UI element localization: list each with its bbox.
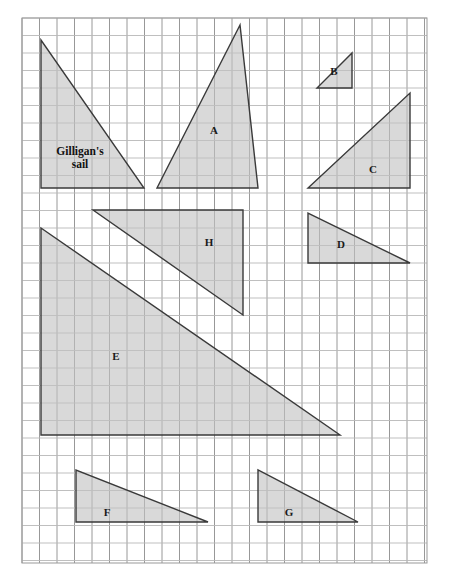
label-triangle-c: C (369, 163, 377, 175)
label-triangle-h: H (205, 236, 214, 248)
triangle-grid-diagram: Gilligan'ssailABCDEFGH (0, 0, 451, 588)
label-triangle-d: D (337, 238, 345, 250)
label-triangle-g: G (285, 506, 294, 518)
label-triangle-f: F (104, 506, 111, 518)
label-triangle-e: E (112, 350, 119, 362)
figure-canvas: Gilligan'ssailABCDEFGH (0, 0, 451, 588)
label-triangle-a: A (210, 124, 218, 136)
label-triangle-b: B (330, 65, 338, 77)
